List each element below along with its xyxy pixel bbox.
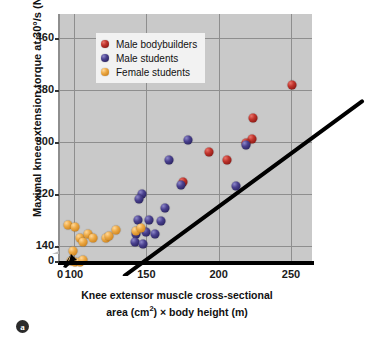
data-point-marker [223,156,232,165]
y-tick-mark [55,38,59,40]
y-axis-title: Maximal knee extension torque at 30°/s (… [31,0,43,217]
panel-tag: a [16,320,29,333]
x-tick-label: 0 [57,268,63,280]
legend-item-label: Female students [116,67,190,78]
data-point-marker [249,113,258,122]
x-tick-label: 150 [137,268,155,280]
x-axis-title-line1: Knee extensor muscle cross-sectional [81,289,272,301]
data-point-marker [88,234,97,243]
legend-item-label: Male bodybuilders [116,39,197,50]
data-point-marker [71,222,80,231]
x-tick-label: 100 [65,268,83,280]
x-axis-title: Knee extensor muscle cross-sectional are… [46,289,308,319]
y-tick-mark [55,261,59,263]
x-axis-title-line2-prefix: area (cm [106,306,149,318]
legend: Male bodybuilders Male students Female s… [96,33,205,83]
y-tick-mark [55,142,59,144]
data-point-marker [177,180,186,189]
x-tick-label: 250 [282,268,300,280]
y-tick-label: 140 [26,239,54,251]
data-point-marker [139,240,148,249]
legend-item-label: Male students [116,53,178,64]
data-point-marker [288,80,297,89]
data-point-marker [78,238,87,247]
legend-marker-sphere-icon [101,40,109,48]
data-point-marker [165,156,174,165]
y-tick-label: 0 [26,254,54,266]
data-point-marker [204,147,213,156]
data-point-marker [156,217,165,226]
data-point-marker [161,203,170,212]
legend-marker-sphere-icon [101,68,109,76]
legend-item-male-bodybuilders[interactable]: Male bodybuilders [101,37,197,51]
data-point-marker [232,182,241,191]
legend-item-male-students[interactable]: Male students [101,51,197,65]
y-tick-mark [55,90,59,92]
y-tick-mark [55,194,59,196]
data-point-marker [135,195,144,204]
data-point-marker [111,225,120,234]
data-point-marker [136,223,145,232]
data-point-marker [130,238,139,247]
legend-item-female-students[interactable]: Female students [101,65,197,79]
data-point-marker [145,216,154,225]
y-tick-mark [55,246,59,248]
y-axis-line [58,14,60,262]
data-point-marker [151,230,160,239]
data-point-marker [184,136,193,145]
x-axis-title-line2-suffix: ) × body height (m) [154,306,248,318]
data-point-marker [104,232,113,241]
data-point-marker [242,140,251,149]
axis-break-arrow-icon [62,252,80,269]
legend-marker-sphere-icon [101,54,109,62]
x-tick-label: 200 [209,268,227,280]
x-axis-line [58,261,314,265]
